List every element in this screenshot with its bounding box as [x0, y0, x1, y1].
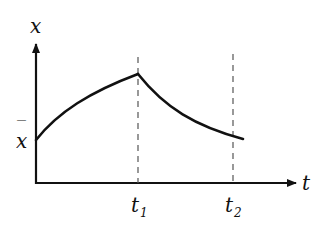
response-curve-decay — [138, 74, 243, 139]
baseline-label: x — [16, 129, 27, 153]
diagram-canvas: x t ‾ x t 1 t 2 — [0, 0, 320, 228]
y-axis-label: x — [30, 14, 41, 38]
t2-label: t — [225, 193, 234, 217]
t1-label: t — [131, 193, 140, 217]
t2-subscript: 2 — [233, 206, 242, 220]
x-axis-label: t — [302, 171, 311, 195]
response-curve-rise — [36, 74, 138, 140]
t1-subscript: 1 — [140, 206, 148, 220]
